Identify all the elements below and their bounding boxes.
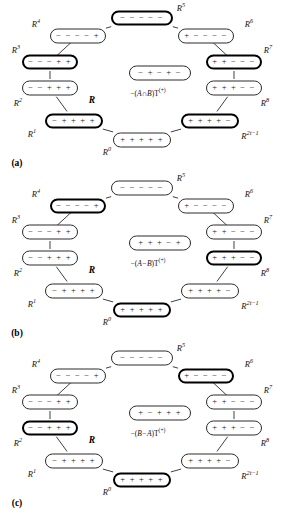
node-label-r6: R6 xyxy=(245,359,253,369)
node-label-superscript: 4 xyxy=(37,17,40,24)
node-label-exponent: 2 xyxy=(19,266,22,273)
node-sign-sequence: + − − − − xyxy=(183,31,228,40)
node-r2: − − + + + xyxy=(22,251,78,266)
node-label-superscript: 6 xyxy=(250,357,253,364)
node-label-r5: R5 xyxy=(177,3,185,13)
node-sign-sequence: − − − − + xyxy=(55,201,100,210)
node-sign-sequence: + + + − − xyxy=(211,423,256,432)
node-label-exponent: 4 xyxy=(37,187,40,194)
node-sign-sequence: + + + − − xyxy=(211,253,256,262)
edge-R1-R2 xyxy=(56,267,67,282)
node-r6: + − − − − xyxy=(178,29,234,44)
node-label-r2t1: R2t−1 xyxy=(241,301,258,311)
ring-label-R: R xyxy=(89,265,95,275)
node-label-r5: R5 xyxy=(177,343,185,353)
figure-three-panel-ring-diagram: − − − − −R5− − − − +R4+ − − − −R6− − − +… xyxy=(0,0,285,515)
node-sign-sequence: − − − − − xyxy=(119,353,164,362)
node-label-superscript: 6 xyxy=(250,17,253,24)
formula-superscript: (+) xyxy=(159,257,166,263)
edge-R4-R5 xyxy=(106,367,111,368)
formula-set-expression: A∩B xyxy=(137,89,152,98)
node-label-r6: R6 xyxy=(245,19,253,29)
node-label-exponent: 7 xyxy=(269,213,272,220)
edge-R8-R2t1 xyxy=(217,437,228,452)
panel-caption-a: (a) xyxy=(11,158,22,168)
node-sign-sequence: − − − − + xyxy=(55,31,100,40)
node-label-exponent: 1 xyxy=(33,127,36,134)
node-label-exponent: 6 xyxy=(250,17,253,24)
node-label-r7: R7 xyxy=(264,385,272,395)
panel-caption-b: (b) xyxy=(11,328,23,338)
node-r2: − − + + + xyxy=(22,81,78,96)
node-label-superscript: 1 xyxy=(33,297,36,304)
node-sign-sequence: + + − − − xyxy=(211,397,256,406)
node-label-r4: R4 xyxy=(32,359,40,369)
node-label-superscript: 2 xyxy=(19,96,22,103)
node-r1: − + + + + xyxy=(45,114,103,129)
node-sign-sequence: − − − + + xyxy=(27,397,72,406)
node-r7: + + − − − xyxy=(206,395,262,410)
node-label-superscript: 1 xyxy=(33,127,36,134)
edge-R5-R6 xyxy=(173,367,178,368)
node-label-exponent: 2t−1 xyxy=(247,299,259,306)
node-label-exponent: 8 xyxy=(266,436,269,443)
edge-R2t1-R0 xyxy=(171,299,181,302)
node-label-r5: R5 xyxy=(177,173,185,183)
node-label-r3: R3 xyxy=(12,45,20,55)
node-label-superscript: 2t−1 xyxy=(247,129,259,136)
edge-R0-R1 xyxy=(103,129,113,132)
node-label-exponent: 8 xyxy=(266,96,269,103)
panel-a: − − − − −R5− − − − +R4+ − − − −R6− − − +… xyxy=(0,0,285,172)
node-label-r0: R0 xyxy=(103,147,111,157)
node-label-r2t1: R2t−1 xyxy=(241,471,258,481)
center-node-sign-sequence: + − + + + xyxy=(137,408,182,417)
node-r2t1: + + + + − xyxy=(181,114,239,129)
formula-prefix: −( xyxy=(130,89,137,98)
node-label-exponent: 6 xyxy=(250,357,253,364)
node-sign-sequence: + + + + − xyxy=(187,116,232,125)
node-label-exponent: 3 xyxy=(17,213,20,220)
node-label-r3: R3 xyxy=(12,385,20,395)
node-label-exponent: 2t−1 xyxy=(247,469,259,476)
node-sign-sequence: + + + + − xyxy=(187,286,232,295)
node-r7: + + − − − xyxy=(206,55,262,70)
node-label-r2: R2 xyxy=(14,98,22,108)
node-label-exponent: 1 xyxy=(33,467,36,474)
node-label-r8: R8 xyxy=(261,438,269,448)
edge-R0-R1 xyxy=(103,469,113,472)
node-label-superscript: 5 xyxy=(182,1,185,8)
node-label-superscript: 4 xyxy=(37,357,40,364)
edge-R8-R2t1 xyxy=(217,97,228,112)
edge-R2t1-R0 xyxy=(171,129,181,132)
node-label-superscript: 7 xyxy=(269,383,272,390)
ring-label-R: R xyxy=(89,95,95,105)
node-label-superscript: 6 xyxy=(250,187,253,194)
node-r1: − + + + + xyxy=(45,454,103,469)
edge-R4-R5 xyxy=(106,197,111,198)
node-label-superscript: 8 xyxy=(266,436,269,443)
node-label-superscript: 5 xyxy=(182,171,185,178)
node-label-r2: R2 xyxy=(14,268,22,278)
node-sign-sequence: + + − − − xyxy=(211,57,256,66)
node-label-superscript: 2 xyxy=(19,266,22,273)
center-node-sign-sequence: − + − + − xyxy=(137,68,182,77)
edge-R5-R6 xyxy=(173,27,178,28)
node-label-r2t1: R2t−1 xyxy=(241,131,258,141)
node-r8: + + + − − xyxy=(206,421,262,436)
node-label-exponent: 7 xyxy=(269,383,272,390)
node-label-r8: R8 xyxy=(261,268,269,278)
node-label-r1: R1 xyxy=(28,469,36,479)
node-label-exponent: 8 xyxy=(266,266,269,273)
center-node-formula: −(A∩B)T(+) xyxy=(130,89,165,98)
node-r0: + + + + + xyxy=(113,303,171,318)
node-r0: + + + + + xyxy=(113,133,171,148)
node-sign-sequence: + + − − − xyxy=(211,227,256,236)
node-label-superscript: 5 xyxy=(182,341,185,348)
formula-prefix: −( xyxy=(131,259,138,268)
node-label-superscript: 7 xyxy=(269,43,272,50)
node-label-superscript: 2t−1 xyxy=(247,299,259,306)
node-sign-sequence: − − + + + xyxy=(27,423,72,432)
node-label-exponent: 2 xyxy=(19,96,22,103)
node-r1: − + + + + xyxy=(45,284,103,299)
node-sign-sequence: + + + + + xyxy=(119,475,164,484)
